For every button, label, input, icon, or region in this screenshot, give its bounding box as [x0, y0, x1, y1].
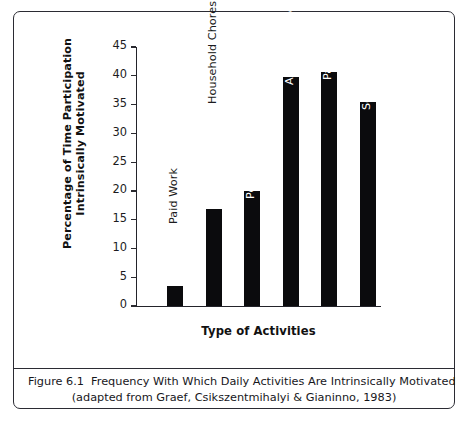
y-axis-tick: 25 [131, 162, 136, 163]
y-axis-tick: 20 [131, 190, 136, 191]
bar-category-label: Active Leisure [283, 5, 296, 85]
y-axis-tick: 10 [131, 248, 136, 249]
caption-line-1: Figure 6.1Frequency With Which Daily Act… [28, 374, 440, 390]
y-axis-tick: 45 [131, 46, 136, 47]
bar-category-label: Household Chores [206, 1, 219, 104]
x-axis-line [136, 306, 381, 307]
y-axis-tick-label: 20 [105, 182, 127, 196]
y-axis-title-line-2: Intrinsically Motivated [74, 28, 87, 258]
bar-category-label: Paid Work [167, 168, 180, 224]
y-axis-tick: 40 [131, 75, 136, 76]
y-axis-tick-label: 10 [105, 240, 127, 254]
figure-caption: Figure 6.1Frequency With Which Daily Act… [14, 374, 454, 406]
bar [244, 191, 260, 306]
bar [321, 72, 337, 306]
y-axis-tick-label: 5 [105, 269, 127, 283]
caption-text-1: Frequency With Which Daily Activities Ar… [91, 375, 456, 388]
bar-category-label: Passive Leisure [321, 0, 334, 80]
y-axis-tick: 5 [131, 277, 136, 278]
bar-category-label: Socializing [360, 49, 373, 110]
y-axis-tick-label: 45 [105, 38, 127, 52]
y-axis-title-line-1: Percentage of Time Participation [61, 28, 74, 258]
plot-area: 051015202530354045 Paid WorkHousehold Ch… [136, 47, 381, 306]
caption-line-2: (adapted from Graef, Csikszentmihalyi & … [28, 390, 440, 406]
bar-category-label: Personal Care [244, 121, 257, 199]
y-axis-tick-label: 25 [105, 154, 127, 168]
y-axis-tick-label: 40 [105, 67, 127, 81]
y-axis-tick: 15 [131, 219, 136, 220]
bar [206, 209, 222, 306]
bar [167, 286, 183, 306]
y-axis-tick-label: 30 [105, 125, 127, 139]
x-axis-title: Type of Activities [136, 324, 381, 338]
caption-figure-number: Figure 6.1 [28, 375, 84, 388]
bar [360, 102, 376, 306]
caption-divider [14, 368, 454, 369]
y-axis-tick: 0 [131, 305, 136, 306]
y-axis-line [136, 47, 137, 306]
y-axis-tick-label: 0 [105, 297, 127, 311]
y-axis-tick-label: 15 [105, 211, 127, 225]
bar [283, 77, 299, 306]
y-axis-tick: 30 [131, 133, 136, 134]
figure-frame: Percentage of Time Participation Intrins… [13, 11, 455, 409]
y-axis-title: Percentage of Time Participation Intrins… [61, 28, 88, 258]
chart-region: Percentage of Time Participation Intrins… [14, 12, 454, 368]
y-axis-tick: 35 [131, 104, 136, 105]
y-axis-tick-label: 35 [105, 96, 127, 110]
